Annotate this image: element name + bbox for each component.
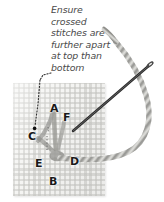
aida-fabric-swatch <box>13 83 105 196</box>
label-point-c: C <box>28 131 36 142</box>
label-point-d: D <box>70 156 79 167</box>
label-point-e: E <box>35 158 43 169</box>
figure-canvas: Ensure crossed stitches are further apar… <box>0 0 164 202</box>
instruction-caption: Ensure crossed stitches are further apar… <box>51 4 127 74</box>
label-point-b: B <box>49 176 57 187</box>
label-point-a: A <box>50 103 59 114</box>
label-point-f: F <box>63 112 71 123</box>
